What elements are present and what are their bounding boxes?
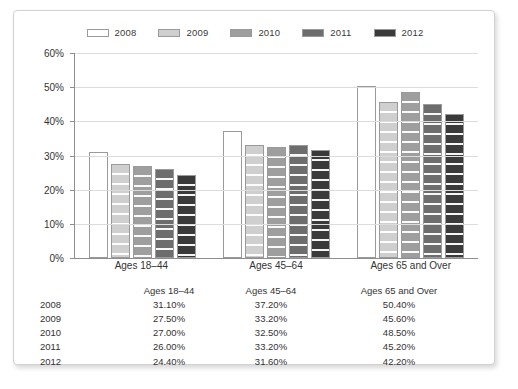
data-table: Ages 18–44Ages 45–64Ages 65 and Over 200…	[36, 283, 476, 368]
table-header-cell-2: Ages 45–64	[220, 283, 322, 297]
category-label-1: Ages 18–44	[74, 260, 209, 271]
legend-label-2008: 2008	[115, 27, 137, 38]
table-header-cell-3: Ages 65 and Over	[322, 283, 476, 297]
bar-2010-group-2[interactable]	[267, 147, 286, 258]
table-year-cell: 2008	[36, 297, 118, 311]
table-value-cell-1: 27.50%	[118, 311, 220, 325]
y-tick-mark-10	[70, 224, 75, 225]
table-corner-cell	[36, 283, 118, 297]
category-label-2: Ages 45–64	[209, 260, 344, 271]
gridline-40	[75, 121, 478, 122]
plot-wrapper: 60%50%40%30%20%10%0% Ages 18–44Ages 45–6…	[14, 53, 496, 268]
bar-2008-group-2[interactable]	[223, 131, 242, 258]
table-year-cell: 2010	[36, 326, 118, 340]
table-row: 200927.50%33.20%45.60%	[36, 311, 476, 325]
category-label-3: Ages 65 and Over	[343, 260, 478, 271]
table-row: 200831.10%37.20%50.40%	[36, 297, 476, 311]
gridline-0	[75, 258, 478, 259]
legend-swatch-2010	[230, 29, 252, 37]
legend-label-2010: 2010	[258, 27, 280, 38]
bar-2010-group-1[interactable]	[133, 166, 152, 258]
y-tick-label-50: 50%	[44, 82, 64, 93]
bar-2010-group-3[interactable]	[401, 92, 420, 258]
table-value-cell-1: 31.10%	[118, 297, 220, 311]
gridline-10	[75, 224, 478, 225]
y-axis-labels: 60%50%40%30%20%10%0%	[14, 53, 70, 258]
table-value-cell-3: 45.60%	[322, 311, 476, 325]
legend-swatch-2009	[158, 29, 180, 37]
legend-item-2011[interactable]: 2011	[302, 27, 351, 38]
y-tick-label-20: 20%	[44, 184, 64, 195]
table-value-cell-3: 50.40%	[322, 297, 476, 311]
y-tick-label-0: 0%	[50, 253, 64, 264]
table-value-cell-3: 48.50%	[322, 326, 476, 340]
y-tick-mark-50	[70, 87, 75, 88]
bar-2011-group-1[interactable]	[155, 169, 174, 258]
y-tick-label-60: 60%	[44, 48, 64, 59]
legend-label-2009: 2009	[186, 27, 208, 38]
table-header-cell-1: Ages 18–44	[118, 283, 220, 297]
plot-area	[74, 53, 478, 258]
legend-item-2012[interactable]: 2012	[374, 27, 424, 38]
y-tick-mark-0	[70, 258, 75, 259]
x-axis-category-labels: Ages 18–44Ages 45–64Ages 65 and Over	[74, 260, 478, 271]
legend-item-2009[interactable]: 2009	[158, 27, 208, 38]
table-value-cell-2: 33.20%	[220, 340, 322, 354]
table-header-row: Ages 18–44Ages 45–64Ages 65 and Over	[36, 283, 476, 297]
y-tick-label-40: 40%	[44, 116, 64, 127]
bar-2009-group-2[interactable]	[245, 145, 264, 258]
legend-swatch-2008	[87, 29, 109, 37]
legend-item-2008[interactable]: 2008	[87, 27, 137, 38]
y-tick-mark-40	[70, 121, 75, 122]
y-tick-mark-20	[70, 190, 75, 191]
legend-swatch-2011	[302, 29, 324, 37]
table-value-cell-3: 42.20%	[322, 354, 476, 368]
table-value-cell-1: 27.00%	[118, 326, 220, 340]
bar-2009-group-3[interactable]	[379, 102, 398, 258]
bar-2008-group-1[interactable]	[89, 152, 108, 258]
data-table-body: 200831.10%37.20%50.40%200927.50%33.20%45…	[36, 297, 476, 368]
bar-2012-group-3[interactable]	[445, 114, 464, 258]
table-row: 201027.00%32.50%48.50%	[36, 326, 476, 340]
table-value-cell-2: 37.20%	[220, 297, 322, 311]
chart-card: 2008 2009 2010 2011 2012 60%50%40%30%20%…	[13, 10, 495, 365]
legend-label-2011: 2011	[330, 27, 351, 38]
gridline-20	[75, 190, 478, 191]
table-value-cell-2: 33.20%	[220, 311, 322, 325]
data-table-head: Ages 18–44Ages 45–64Ages 65 and Over	[36, 283, 476, 297]
table-value-cell-1: 24.40%	[118, 354, 220, 368]
table-row: 201224.40%31.60%42.20%	[36, 354, 476, 368]
gridline-60	[75, 53, 478, 54]
bar-2011-group-3[interactable]	[423, 104, 442, 258]
table-value-cell-1: 26.00%	[118, 340, 220, 354]
table-year-cell: 2009	[36, 311, 118, 325]
table-year-cell: 2012	[36, 354, 118, 368]
gridline-30	[75, 156, 478, 157]
y-tick-label-10: 10%	[44, 218, 64, 229]
bar-2012-group-1[interactable]	[177, 175, 196, 258]
table-value-cell-2: 31.60%	[220, 354, 322, 368]
y-tick-mark-30	[70, 156, 75, 157]
chart-legend: 2008 2009 2010 2011 2012	[14, 27, 496, 38]
y-tick-mark-60	[70, 53, 75, 54]
table-row: 201126.00%33.20%45.20%	[36, 340, 476, 354]
table-value-cell-2: 32.50%	[220, 326, 322, 340]
y-tick-label-30: 30%	[44, 150, 64, 161]
bar-2009-group-1[interactable]	[111, 164, 130, 258]
bar-2008-group-3[interactable]	[357, 86, 376, 258]
table-value-cell-3: 45.20%	[322, 340, 476, 354]
gridline-50	[75, 87, 478, 88]
bar-2011-group-2[interactable]	[289, 145, 308, 258]
legend-label-2012: 2012	[402, 27, 424, 38]
legend-swatch-2012	[374, 29, 396, 37]
legend-item-2010[interactable]: 2010	[230, 27, 280, 38]
table-year-cell: 2011	[36, 340, 118, 354]
bar-2012-group-2[interactable]	[311, 150, 330, 258]
